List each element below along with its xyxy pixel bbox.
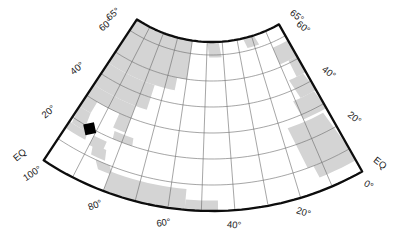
study-site-marker — [83, 122, 96, 135]
latitude-label-right: EQ — [372, 154, 390, 171]
map-outline — [44, 19, 363, 211]
map-canvas: 65°60°40°20°EQ65°60°40°20°EQ100°80°60°40… — [0, 0, 400, 244]
latitude-label-left: 40° — [68, 59, 86, 77]
longitude-label-bottom: 80° — [86, 197, 104, 212]
longitude-label-bottom: 20° — [295, 204, 312, 219]
graticule-layer — [58, 27, 349, 211]
latitude-label-left: 20° — [39, 102, 57, 120]
land-mask-layer — [66, 19, 355, 211]
meridian-line — [201, 42, 207, 211]
latitude-label-left: EQ — [11, 146, 29, 163]
latitude-label-right: 20° — [346, 109, 364, 127]
longitude-label-bottom: 100° — [21, 163, 44, 183]
longitude-label-bottom: 0° — [362, 178, 375, 192]
latitude-label-right: 40° — [320, 63, 338, 81]
conic-map-figure: 65°60°40°20°EQ65°60°40°20°EQ100°80°60°40… — [0, 0, 400, 244]
longitude-label-bottom: 60° — [156, 216, 172, 229]
longitude-label-bottom: 40° — [227, 219, 242, 231]
meridian-line — [237, 40, 268, 206]
